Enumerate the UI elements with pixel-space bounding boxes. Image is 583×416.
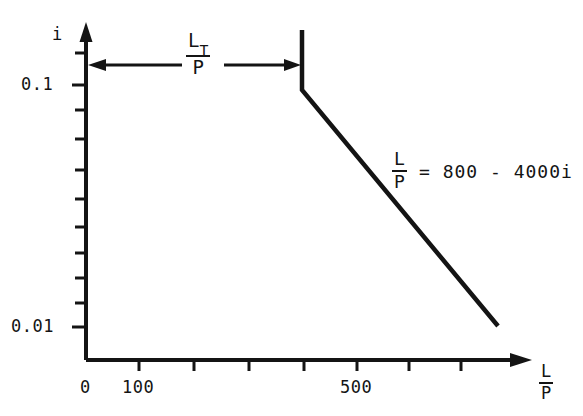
y-tick-label-0-01: 0.01 bbox=[11, 318, 54, 335]
y-tick-label-0-1: 0.1 bbox=[21, 76, 53, 93]
x-axis-arrowhead bbox=[510, 353, 532, 367]
equation-fraction: L P bbox=[392, 150, 407, 192]
arrow-head-left bbox=[88, 59, 106, 71]
transactions-demand-label-fraction: LT P bbox=[186, 31, 210, 78]
x-axis bbox=[86, 353, 532, 367]
lt-numerator-letter: L bbox=[188, 29, 199, 51]
y-axis-arrowhead bbox=[80, 22, 93, 42]
lt-numerator: LT bbox=[186, 31, 210, 57]
x-axis-label-denominator: P bbox=[539, 384, 553, 403]
x-axis-label-numerator: L bbox=[539, 363, 553, 384]
x-tick-label-500: 500 bbox=[340, 379, 372, 396]
equation-denominator: P bbox=[392, 172, 407, 192]
lt-denominator: P bbox=[186, 57, 210, 78]
equation-numerator: L bbox=[392, 150, 407, 172]
x-tick-label-0: 0 bbox=[80, 379, 91, 396]
y-axis bbox=[80, 22, 93, 360]
x-tick-label-100: 100 bbox=[122, 379, 154, 396]
arrow-head-right bbox=[284, 59, 301, 71]
chart-figure: i 0.1 0.01 0 100 500 L P LT P L P = 800 … bbox=[0, 0, 583, 416]
y-axis-ticks bbox=[72, 53, 86, 327]
x-axis-label-fraction: L P bbox=[539, 363, 553, 403]
y-axis-label: i bbox=[52, 26, 62, 43]
lt-numerator-subscript: T bbox=[199, 41, 208, 58]
equation-rhs: = 800 - 4000i bbox=[419, 161, 573, 182]
chart-canvas bbox=[0, 0, 583, 416]
